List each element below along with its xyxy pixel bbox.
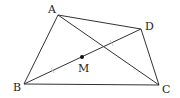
- side-cd: [141, 29, 159, 85]
- quadrilateral-diagram: A B C D M: [0, 0, 180, 98]
- label-a: A: [47, 3, 57, 16]
- vertex-labels: A B C D M: [13, 3, 170, 96]
- side-ab: [24, 15, 58, 84]
- label-d: D: [145, 20, 154, 33]
- diagonal-ac: [58, 15, 159, 85]
- label-m: M: [78, 62, 89, 75]
- label-c: C: [162, 83, 170, 96]
- label-b: B: [13, 81, 21, 94]
- diagonals: [24, 15, 159, 85]
- intersection-point-m: [80, 55, 84, 59]
- side-da: [58, 15, 141, 29]
- side-bc: [24, 84, 159, 85]
